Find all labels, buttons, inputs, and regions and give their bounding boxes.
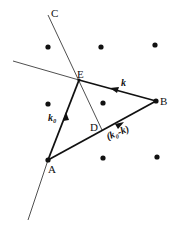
vector-k0-minus-k [48, 101, 156, 160]
arrow-k-icon [110, 87, 119, 93]
diagram-canvas: C E B D A k k₀ (k₀-k) [0, 0, 179, 232]
ewald-diagram: C E B D A k k₀ (k₀-k) [0, 0, 179, 232]
lattice-points [45, 42, 159, 162]
label-c: C [51, 7, 58, 19]
line-through-a [28, 160, 48, 220]
label-k: k [121, 77, 126, 88]
label-k0: k₀ [48, 112, 57, 123]
label-a: A [48, 163, 56, 175]
label-d: D [90, 121, 98, 133]
line-left-to-e [13, 61, 79, 80]
label-b: B [160, 95, 167, 107]
label-k0-minus-k: (k₀-k) [105, 123, 131, 143]
label-e: E [77, 68, 84, 80]
